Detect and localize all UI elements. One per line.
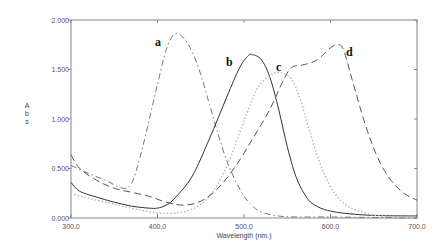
y-tick-label: 2.000: [51, 17, 69, 24]
curve-label-a: a: [155, 35, 161, 49]
x-tick-label: 300.0: [62, 223, 80, 230]
x-tick-label: 700.0: [408, 223, 426, 230]
x-tick-label: 600.0: [322, 223, 340, 230]
absorbance-chart: 300.0400.0500.0600.0700.00.0000.5001.000…: [0, 0, 446, 247]
curve-label-b: b: [226, 55, 233, 69]
curves: [71, 33, 417, 218]
y-tick-label: 0.000: [51, 215, 69, 222]
x-tick-label: 400.0: [149, 223, 167, 230]
axis-ticks: 300.0400.0500.0600.0700.00.0000.5001.000…: [51, 17, 425, 231]
y-axis-title-letter-a: A: [25, 102, 30, 109]
curve-c: [71, 72, 417, 217]
curve-b: [71, 54, 417, 216]
y-tick-label: 1.000: [51, 116, 69, 123]
x-axis-title: Wavelength (nm.): [217, 232, 272, 240]
y-tick-label: 1.500: [51, 66, 69, 73]
y-axis-title-letter-s: s: [25, 118, 29, 125]
curve-label-d: d: [346, 45, 353, 59]
curve-d: [71, 45, 417, 205]
x-tick-label: 500.0: [235, 223, 253, 230]
curve-label-c: c: [276, 60, 282, 74]
y-tick-label: 0.500: [51, 165, 69, 172]
y-axis-title-letter-b: b: [25, 110, 29, 117]
